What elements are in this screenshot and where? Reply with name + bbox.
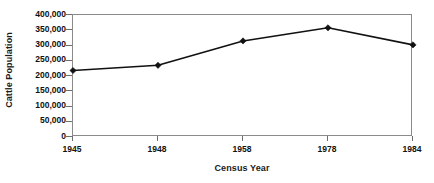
- y-axis-tick-mark: [66, 45, 72, 46]
- data-point-marker: [240, 38, 246, 44]
- y-axis-tick-mark: [66, 106, 72, 107]
- x-axis-tick-mark: [412, 136, 413, 141]
- y-axis-tick-mark: [66, 75, 72, 76]
- series-line: [73, 28, 413, 71]
- y-axis-tick-label: 250,000: [35, 55, 66, 64]
- y-axis-tick-label: 50,000: [40, 116, 66, 125]
- x-axis-tick-label: 1948: [127, 145, 187, 154]
- x-axis-tick-mark: [327, 136, 328, 141]
- x-axis-tick-label: 1958: [212, 145, 272, 154]
- x-axis-tick-label: 1984: [382, 145, 434, 154]
- y-axis-tick-label: 150,000: [35, 86, 66, 95]
- y-axis-tick-mark: [66, 29, 72, 30]
- x-axis-title: Census Year: [72, 163, 412, 173]
- y-axis-tick-label: 400,000: [35, 10, 66, 19]
- y-axis-tick-mark: [66, 121, 72, 122]
- line-chart: Cattle Population 050,000100,000150,0002…: [0, 0, 434, 183]
- x-axis-tick-mark: [242, 136, 243, 141]
- data-point-marker: [325, 25, 331, 31]
- x-axis-tick-mark: [72, 136, 73, 141]
- x-axis-tick-label: 1978: [297, 145, 357, 154]
- y-axis-tick-label: 100,000: [35, 101, 66, 110]
- x-axis-tick-mark: [157, 136, 158, 141]
- data-point-marker: [70, 67, 76, 73]
- data-series-svg: [73, 15, 413, 137]
- y-axis-tick-mark: [66, 60, 72, 61]
- y-axis-title-label: Cattle Population: [4, 32, 14, 108]
- y-axis-tick-label: 350,000: [35, 25, 66, 34]
- data-point-marker: [155, 62, 161, 68]
- plot-area: [72, 14, 412, 136]
- y-axis-tick-label: 200,000: [35, 71, 66, 80]
- y-axis-tick-labels: 050,000100,000150,000200,000250,000300,0…: [14, 0, 66, 183]
- y-axis-tick-label: 300,000: [35, 40, 66, 49]
- y-axis-tick-mark: [66, 14, 72, 15]
- y-axis-tick-mark: [66, 90, 72, 91]
- data-point-marker: [410, 42, 416, 48]
- x-axis-tick-label: 1945: [42, 145, 102, 154]
